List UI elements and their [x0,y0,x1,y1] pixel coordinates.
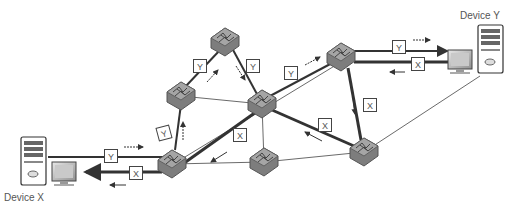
packet-y: Y [246,59,260,73]
server-tower-icon [21,137,46,185]
packet-y: Y [392,40,406,54]
packet-x: X [233,128,247,142]
packet-x: X [318,118,332,132]
monitor-icon [52,162,76,186]
switch-icon [327,43,355,71]
packet-x: X [363,98,377,112]
packet-x: X [411,57,425,71]
device-y [448,25,503,74]
switch-icon [158,150,186,178]
switch-icon [350,138,378,166]
device-x-label: Device X [4,192,44,203]
switches [158,28,378,178]
switch-icon [167,82,195,110]
network-diagram [0,0,523,210]
packet-y: Y [284,66,298,80]
device-x [21,137,76,186]
thin-links [172,62,480,164]
packet-x: X [129,166,143,180]
device-y-label: Device Y [460,10,500,21]
packet-y: Y [104,149,118,163]
packet-y: Y [193,59,207,73]
monitor-icon [448,50,472,74]
switch-icon [250,148,278,176]
server-tower-icon [478,25,503,73]
